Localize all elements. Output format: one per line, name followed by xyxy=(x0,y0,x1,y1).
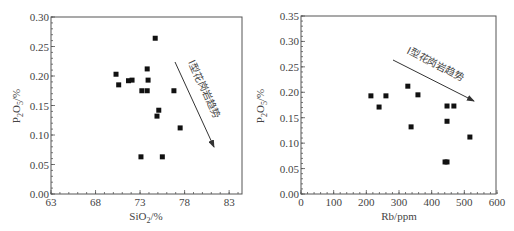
data-point-marker xyxy=(146,78,151,83)
left-x-axis-label: SiO2/% xyxy=(129,210,162,225)
y-tick-label: 0.05 xyxy=(280,163,300,175)
data-point-marker xyxy=(145,66,150,71)
right-trend-annotation: I型花岗岩趋势 xyxy=(405,44,467,83)
y-tick-label: 0.05 xyxy=(30,159,50,171)
y-tick-label: 0.25 xyxy=(30,41,50,53)
data-point-marker xyxy=(145,88,150,93)
right-chart: 0.000.050.100.150.200.250.300.3501002003… xyxy=(254,10,506,222)
x-tick-label: 100 xyxy=(325,196,342,208)
data-point-marker xyxy=(156,108,161,113)
y-tick-label: 0.20 xyxy=(30,70,50,82)
data-point-marker xyxy=(178,125,183,130)
data-point-marker xyxy=(377,105,382,110)
left-y-axis-label: P2O5/% xyxy=(10,89,25,123)
x-tick-label: 73 xyxy=(135,196,147,208)
data-point-marker xyxy=(171,88,176,93)
left-chart: 0.000.050.100.150.200.250.306368737883 P… xyxy=(10,11,242,225)
right-tick-labels: 0.000.050.100.150.200.250.300.3501002003… xyxy=(280,10,506,208)
x-tick-label: 83 xyxy=(224,196,236,208)
data-point-marker xyxy=(154,114,159,119)
right-axis-ticks xyxy=(301,16,497,194)
x-tick-label: 0 xyxy=(298,196,304,208)
data-point-marker xyxy=(153,36,158,41)
y-tick-label: 0.00 xyxy=(280,188,300,200)
data-point-marker xyxy=(130,78,135,83)
right-y-axis-label: P2O5/% xyxy=(254,89,269,123)
x-tick-label: 400 xyxy=(423,196,440,208)
y-tick-label: 0.35 xyxy=(280,10,300,22)
y-tick-label: 0.10 xyxy=(30,129,50,141)
data-point-marker xyxy=(467,135,472,140)
x-tick-label: 300 xyxy=(391,196,408,208)
left-trend-annotation: I型花岗岩趋势 xyxy=(186,58,223,120)
data-point-marker xyxy=(138,154,143,159)
data-point-marker xyxy=(368,93,373,98)
data-point-marker xyxy=(409,124,414,129)
data-point-marker xyxy=(451,104,456,109)
x-tick-label: 500 xyxy=(456,196,473,208)
data-point-marker xyxy=(415,92,420,97)
y-tick-label: 0.20 xyxy=(280,86,300,98)
data-point-marker xyxy=(445,159,450,164)
data-point-marker xyxy=(114,72,119,77)
x-tick-label: 68 xyxy=(90,196,102,208)
x-tick-label: 63 xyxy=(46,196,58,208)
data-point-marker xyxy=(445,119,450,124)
x-tick-label: 78 xyxy=(179,196,191,208)
y-tick-label: 0.15 xyxy=(280,112,300,124)
right-x-axis-label: Rb/ppm xyxy=(381,210,417,222)
data-point-marker xyxy=(116,82,121,87)
left-data-points xyxy=(114,36,183,160)
x-tick-label: 200 xyxy=(358,196,375,208)
x-tick-label: 600 xyxy=(489,196,506,208)
left-tick-labels: 0.000.050.100.150.200.250.306368737883 xyxy=(30,11,235,208)
right-plot-frame xyxy=(301,16,496,194)
data-point-marker xyxy=(445,104,450,109)
data-point-marker xyxy=(160,154,165,159)
data-point-marker xyxy=(383,93,388,98)
right-data-points xyxy=(368,84,472,165)
y-tick-label: 0.30 xyxy=(280,35,300,47)
y-tick-label: 0.10 xyxy=(280,137,300,149)
y-tick-label: 0.30 xyxy=(30,11,50,23)
data-point-marker xyxy=(139,88,144,93)
data-point-marker xyxy=(405,84,410,89)
y-tick-label: 0.25 xyxy=(280,61,300,73)
y-tick-label: 0.15 xyxy=(30,100,50,112)
